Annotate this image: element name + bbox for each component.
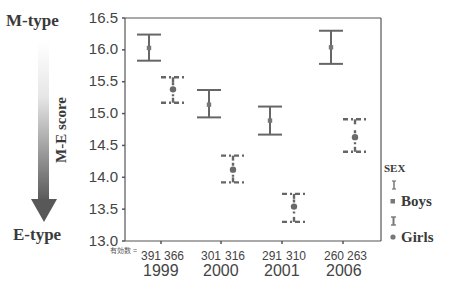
x-tick-label-2001: 2001 bbox=[264, 262, 300, 280]
count-girls-2001: 310 bbox=[286, 249, 306, 263]
legend-label-boys: Boys bbox=[401, 193, 432, 210]
legend-boys-square-icon bbox=[391, 199, 396, 204]
errorbar-boys-2001 bbox=[258, 107, 282, 135]
count-boys-2006: 260 bbox=[324, 249, 344, 263]
valid-count-label: 有効数 = bbox=[110, 245, 137, 255]
y-tick-label: 16.5 bbox=[82, 9, 118, 26]
errorbar-girls-2000 bbox=[221, 156, 245, 183]
count-girls-2006: 263 bbox=[347, 249, 367, 263]
plot-frame bbox=[125, 18, 381, 241]
errorbar-girls-1999 bbox=[161, 77, 185, 102]
y-tick-label: 14.5 bbox=[82, 136, 118, 153]
errorbar-boys-2000 bbox=[197, 90, 221, 117]
errorbar-girls-2006 bbox=[343, 119, 367, 151]
x-tick-label-2000: 2000 bbox=[203, 262, 239, 280]
legend-glyphs bbox=[390, 181, 396, 240]
y-tick-label: 14.0 bbox=[82, 168, 118, 185]
count-girls-1999: 366 bbox=[164, 249, 184, 263]
y-tick-label: 13.5 bbox=[82, 200, 118, 217]
legend-boys-bar-icon bbox=[392, 181, 396, 189]
count-boys-2000: 301 bbox=[201, 249, 221, 263]
count-girls-2000: 316 bbox=[225, 249, 245, 263]
y-tick-label: 15.5 bbox=[82, 72, 118, 89]
legend-girls-bar-icon bbox=[391, 217, 396, 225]
x-tick-label-1999: 1999 bbox=[143, 262, 179, 280]
x-tick-label-2006: 2006 bbox=[326, 262, 362, 280]
y-tick-label: 15.0 bbox=[82, 104, 118, 121]
error-bars bbox=[137, 31, 367, 222]
count-boys-1999: 391 bbox=[141, 249, 161, 263]
y-axis-label: M-E score bbox=[53, 97, 70, 163]
legend-girls-circle-icon bbox=[390, 234, 395, 239]
errorbar-boys-2006 bbox=[319, 31, 343, 64]
y-tick-label: 16.0 bbox=[82, 40, 118, 57]
legend-label-girls: Girls bbox=[401, 229, 434, 246]
errorbar-boys-1999 bbox=[137, 35, 161, 61]
count-boys-2001: 291 bbox=[262, 249, 282, 263]
legend-title: SEX bbox=[384, 162, 405, 174]
errorbar-girls-2001 bbox=[282, 194, 306, 222]
